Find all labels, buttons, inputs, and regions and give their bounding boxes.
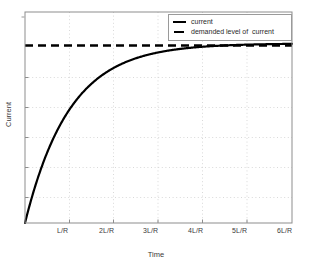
legend-entry-current: current [172,17,288,27]
x-tick-label-6: 6L/R [277,227,292,234]
legend-dashed-line-icon [172,27,187,37]
x-tick-label-3: 3L/R [143,227,158,234]
legend-solid-line-icon [172,17,187,27]
x-tick-label-2: 2L/R [99,227,114,234]
x-tick-label-5: 5L/R [232,227,247,234]
legend-label: current [191,17,213,27]
legend-entry-demanded-level: demanded level of current [172,27,288,37]
x-tick-label-1: L/R [57,227,68,234]
x-axis-title: Time [0,250,312,259]
x-tick-label-4: 4L/R [188,227,203,234]
legend-label: demanded level of current [191,27,274,37]
y-axis-title: Current [4,85,13,145]
chart-legend: current demanded level of current [168,14,292,41]
chart-figure: L/R 2L/R 3L/R 4L/R 5L/R 6L/R Time Curren… [0,0,312,267]
